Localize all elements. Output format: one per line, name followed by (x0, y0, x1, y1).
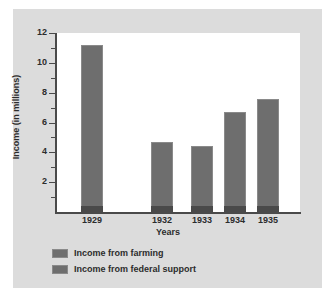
x-tick-label: 1929 (72, 215, 112, 225)
bar (81, 45, 103, 212)
y-tick-major (49, 63, 56, 64)
y-tick-minor (51, 197, 56, 198)
legend-item: Income from farming (52, 246, 292, 260)
x-axis-title: Years (0, 227, 336, 237)
y-axis-tick-labels: 24681012 (22, 0, 47, 297)
y-tick-minor (51, 48, 56, 49)
y-axis-title: Income (in millions) (11, 57, 21, 177)
y-tick-label: 8 (25, 88, 47, 97)
x-axis-line (55, 212, 301, 214)
y-tick-label: 6 (25, 118, 47, 127)
y-tick-minor (51, 137, 56, 138)
x-tick (224, 206, 246, 212)
y-tick-major (49, 182, 56, 183)
chart-legend: Income from farmingIncome from federal s… (52, 246, 292, 278)
x-tick (257, 206, 279, 212)
y-tick-label: 4 (25, 147, 47, 156)
x-tick (191, 206, 213, 212)
x-tick (81, 206, 103, 212)
y-tick-label: 12 (25, 28, 47, 37)
y-axis-line (55, 33, 57, 214)
x-tick-label: 1932 (142, 215, 182, 225)
y-tick-label: 10 (25, 58, 47, 67)
bar (224, 112, 246, 212)
y-tick-minor (51, 78, 56, 79)
legend-item: Income from federal support (52, 262, 292, 276)
bar-chart-figure: 24681012 Income (in millions) 1929193219… (0, 0, 336, 297)
bar (151, 142, 173, 212)
bar (257, 99, 279, 212)
y-tick-major (49, 123, 56, 124)
bar (191, 146, 213, 212)
y-tick-label: 2 (25, 177, 47, 186)
y-tick-major (49, 33, 56, 34)
legend-swatch (52, 249, 68, 258)
y-tick-major (49, 93, 56, 94)
y-tick-major (49, 152, 56, 153)
y-tick-minor (51, 108, 56, 109)
legend-swatch (52, 265, 68, 274)
y-tick-minor (51, 167, 56, 168)
legend-label: Income from farming (74, 248, 164, 258)
x-tick (151, 206, 173, 212)
x-tick-label: 1935 (248, 215, 288, 225)
legend-label: Income from federal support (74, 264, 196, 274)
